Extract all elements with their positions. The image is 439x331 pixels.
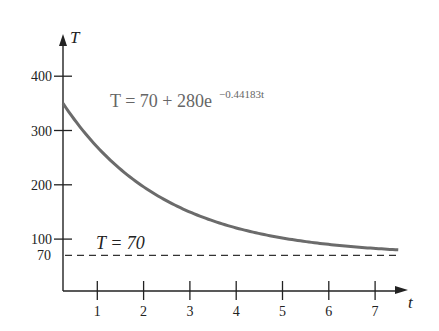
decay-curve	[63, 103, 398, 250]
equation-main: T = 70 + 280e	[110, 91, 212, 111]
y-axis-arrow-icon	[59, 34, 67, 46]
y-tick-label: 200	[31, 178, 52, 193]
y-tick-label: 400	[31, 69, 52, 84]
y-ticks: 70100200300400	[31, 69, 72, 263]
x-tick-label: 4	[233, 304, 240, 319]
x-tick-label: 6	[325, 304, 332, 319]
x-tick-label: 3	[186, 304, 193, 319]
y-tick-label: 70	[37, 248, 51, 263]
x-axis-label: t	[408, 293, 414, 312]
y-axis-label: T	[70, 28, 81, 47]
x-ticks: 1234567	[94, 281, 379, 319]
equation-annotation: T = 70 + 280e −0.44183t	[110, 88, 264, 111]
x-tick-label: 5	[279, 304, 286, 319]
y-tick-label: 300	[31, 124, 52, 139]
y-tick-label: 100	[31, 232, 52, 247]
x-tick-label: 2	[140, 304, 147, 319]
exponential-decay-chart: 70100200300400 1234567 T t T = 70 + 280e…	[0, 0, 439, 331]
equation-exponent: −0.44183t	[219, 88, 264, 100]
x-axis-arrow-icon	[395, 286, 408, 294]
asymptote-label: T = 70	[96, 233, 145, 253]
x-tick-label: 1	[94, 304, 101, 319]
x-tick-label: 7	[372, 304, 379, 319]
